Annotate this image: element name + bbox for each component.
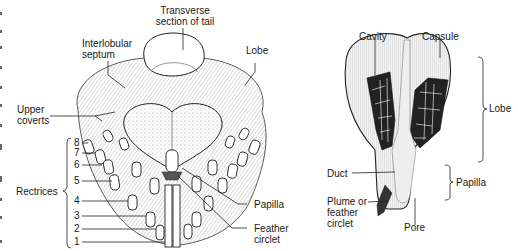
rectrix-number-6: 6	[74, 160, 80, 170]
label-capsule: Capsule	[422, 31, 459, 42]
rectrix-number-4: 4	[74, 196, 80, 206]
label-papilla-left: Papilla	[254, 199, 284, 210]
label-lobe-left: Lobe	[246, 45, 268, 56]
rectrix-number-7: 7	[74, 148, 80, 158]
label-cavity: Cavity	[359, 31, 387, 42]
rectrix-number-5: 5	[74, 176, 80, 186]
label-plume-or-feather-circlet: Plume or feather circlet	[327, 196, 367, 229]
rectrix-number-1: 1	[74, 237, 80, 247]
label-feather-circlet: Feather circlet	[254, 223, 288, 245]
label-pore: Pore	[404, 222, 425, 233]
label-rectrices: Rectrices	[16, 186, 58, 197]
label-papilla-right: Papilla	[456, 177, 486, 188]
label-duct: Duct	[327, 168, 348, 179]
label-transverse-section-of-tail: Transverse section of tail	[150, 5, 220, 27]
rectrix-number-2: 2	[74, 224, 80, 234]
rectrix-number-3: 3	[74, 211, 80, 221]
label-upper-coverts: Upper coverts	[17, 104, 49, 126]
label-lobe-right: Lobe	[489, 103, 511, 114]
label-interlobular-septum: Interlobular septum	[82, 38, 132, 60]
